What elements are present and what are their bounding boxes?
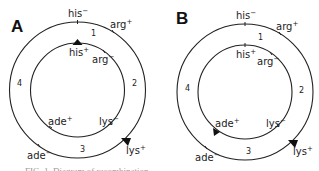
arrowhead-his-plus-a	[73, 39, 83, 45]
segment-3-b: 3	[246, 147, 251, 156]
panel-b-label: B	[176, 9, 188, 28]
label-arg-minus-a: arg−	[92, 53, 114, 65]
label-lys-minus-b: lys−	[266, 117, 286, 129]
label-lys-minus-a: lys−	[99, 115, 119, 127]
label-arg-plus-a: arg+	[110, 18, 132, 30]
label-ade-minus-a: ade−	[27, 149, 52, 161]
label-arg-plus-b: arg+	[276, 20, 298, 32]
label-his-plus-a: his+	[69, 46, 89, 58]
segment-3-a: 3	[80, 145, 85, 154]
label-his-minus-a: his−	[68, 7, 88, 19]
segment-2-a: 2	[132, 79, 137, 88]
recombination-diagram: A his− arg+ his+ arg− ade+ lys− ade− lys…	[0, 0, 319, 171]
label-ade-minus-b: ade−	[195, 151, 220, 163]
figure-caption: FIG. 1. Diagram of recombination ...	[25, 166, 157, 171]
label-lys-plus-b: lys+	[293, 145, 313, 157]
panel-a-label: A	[11, 17, 23, 36]
panel-a: A his− arg+ his+ arg− ade+ lys− ade− lys…	[10, 7, 146, 161]
label-lys-plus-a: lys+	[126, 144, 146, 156]
label-ade-plus-a: ade+	[48, 115, 73, 127]
label-ade-plus-b: ade+	[215, 117, 240, 129]
segment-4-a: 4	[17, 79, 22, 88]
label-his-plus-b: his+	[236, 48, 256, 60]
panel-b: B his− arg+ his+ arg− ade+ lys− ade− lys…	[176, 9, 313, 163]
segment-4-b: 4	[185, 84, 190, 93]
segment-1-b: 1	[258, 33, 263, 42]
segment-2-b: 2	[299, 86, 304, 95]
segment-1-a: 1	[91, 29, 96, 38]
label-arg-minus-b: arg−	[257, 55, 279, 67]
label-his-minus-b: his−	[236, 9, 256, 21]
